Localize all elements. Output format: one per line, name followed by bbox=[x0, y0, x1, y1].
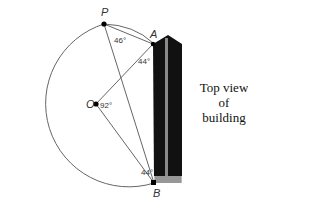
label-P: P bbox=[101, 6, 109, 18]
chord-PA bbox=[104, 24, 153, 44]
building-stripe bbox=[165, 38, 168, 181]
angle-P-label: 46° bbox=[114, 36, 126, 45]
point-A bbox=[151, 42, 155, 46]
building-caption: Top view of building bbox=[198, 80, 248, 125]
angle-A-label: 44° bbox=[138, 57, 150, 66]
caption-line-2: of bbox=[198, 95, 248, 110]
angle-B-label: 44° bbox=[141, 168, 153, 177]
caption-line-1: Top view bbox=[198, 80, 248, 95]
label-B: B bbox=[153, 187, 160, 198]
line-OA bbox=[96, 44, 153, 104]
building bbox=[153, 35, 182, 183]
caption-line-3: building bbox=[198, 110, 248, 125]
point-B bbox=[151, 180, 156, 185]
angle-O-label: 92° bbox=[100, 101, 112, 110]
label-O: O bbox=[86, 98, 95, 110]
label-A: A bbox=[149, 28, 157, 40]
point-P bbox=[101, 21, 106, 26]
